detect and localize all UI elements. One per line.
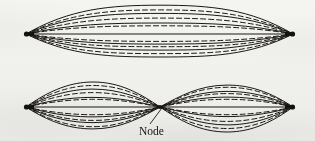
node-label: Node [139,125,164,137]
panel-fundamental-mode [24,5,295,57]
panel-second-harmonic-mode: Node [24,82,295,137]
standing-wave-figure: Node [0,0,315,141]
fundamental-solid-curves [26,5,293,57]
node-point-marker [158,105,162,109]
standing-wave-diagram: Node [0,0,315,141]
